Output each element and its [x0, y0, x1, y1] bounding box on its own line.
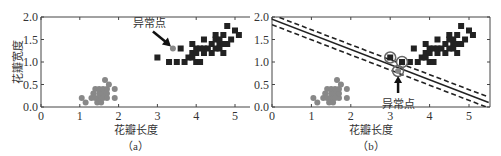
annotation-label: 异常点	[382, 98, 415, 111]
plot-area	[272, 15, 489, 108]
data-point-square	[387, 55, 393, 61]
data-point-circle	[334, 77, 340, 83]
panel-caption: （a）	[122, 140, 149, 152]
arrow-head-icon	[394, 76, 402, 83]
data-point-circle	[395, 68, 401, 74]
data-point-circle	[106, 82, 112, 88]
x-tick-label: 2	[348, 109, 354, 123]
x-tick-label: 2	[116, 109, 122, 123]
y-tick-label: 1.5	[254, 33, 269, 47]
annotation-label: 异常点	[133, 17, 166, 30]
data-point-square	[220, 50, 226, 56]
data-point-circle	[112, 95, 118, 101]
y-tick-label: 1.5	[23, 33, 38, 47]
plot-area	[79, 23, 242, 106]
x-tick-label: 3	[154, 109, 160, 123]
data-point-square	[399, 59, 405, 65]
data-point-square	[174, 59, 180, 65]
x-tick-label: 0	[38, 109, 44, 123]
chart-panel-b: 0.00.51.01.52.0012345花瓣长度（b）异常点	[254, 10, 490, 152]
data-point-circle	[338, 82, 344, 88]
data-point-square	[154, 55, 160, 61]
data-point-circle	[344, 86, 350, 92]
data-point-square	[454, 32, 460, 38]
figure: 0.00.51.01.52.0012345花瓣长度（a）花瓣宽度异常点0.00.…	[0, 0, 501, 156]
y-axis-label: 花瓣宽度	[11, 40, 25, 84]
data-point-square	[470, 32, 476, 38]
data-point-square	[454, 50, 460, 56]
y-tick-label: 0.0	[23, 100, 38, 114]
data-point-square	[166, 59, 172, 65]
data-point-square	[434, 37, 440, 43]
panel-caption: （b）	[357, 140, 385, 152]
y-tick-label: 2.0	[23, 10, 38, 24]
data-point-square	[462, 37, 468, 43]
data-point-square	[228, 37, 234, 43]
y-tick-label: 0.0	[254, 100, 269, 114]
x-tick-label: 3	[387, 109, 393, 123]
x-tick-label: 1	[77, 109, 83, 123]
x-tick-label: 5	[232, 109, 238, 123]
x-tick-label: 5	[466, 109, 472, 123]
y-tick-label: 1.0	[254, 55, 269, 69]
y-tick-label: 0.5	[254, 78, 269, 92]
data-point-circle	[314, 100, 320, 106]
data-point-square	[431, 59, 437, 65]
data-point-circle	[310, 95, 316, 101]
chart-panel-a: 0.00.51.01.52.0012345花瓣长度（a）花瓣宽度异常点	[11, 10, 250, 152]
x-tick-label: 1	[308, 109, 314, 123]
x-axis-label: 花瓣长度	[349, 123, 393, 137]
data-point-square	[458, 23, 464, 29]
x-tick-label: 4	[427, 109, 433, 123]
data-point-circle	[83, 100, 89, 106]
x-axis-label: 花瓣长度	[114, 123, 158, 137]
data-point-square	[411, 46, 417, 52]
y-tick-label: 2.0	[254, 10, 269, 24]
data-point-square	[224, 23, 230, 29]
y-tick-label: 0.5	[23, 78, 38, 92]
decision-boundary	[272, 19, 489, 102]
x-tick-label: 0	[269, 109, 275, 123]
data-point-circle	[344, 95, 350, 101]
data-point-square	[178, 46, 184, 52]
data-point-square	[236, 32, 242, 38]
data-point-square	[220, 32, 226, 38]
x-tick-label: 4	[193, 109, 199, 123]
data-point-square	[197, 59, 203, 65]
y-tick-label: 1.0	[23, 55, 38, 69]
data-point-circle	[112, 86, 118, 92]
data-point-square	[201, 37, 207, 43]
